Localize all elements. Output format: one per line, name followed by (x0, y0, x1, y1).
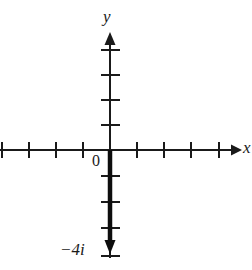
plotted-point-label: −4i (60, 241, 85, 258)
x-axis-label: x (243, 139, 251, 156)
complex-plane-figure: y x 0 −4i (0, 0, 252, 270)
arrow-right-icon (231, 145, 242, 156)
origin-label: 0 (92, 153, 100, 169)
arrow-up-icon (105, 32, 116, 45)
axes-plot (0, 0, 252, 270)
arrow-down-icon (105, 240, 116, 254)
y-axis-label: y (103, 8, 111, 25)
